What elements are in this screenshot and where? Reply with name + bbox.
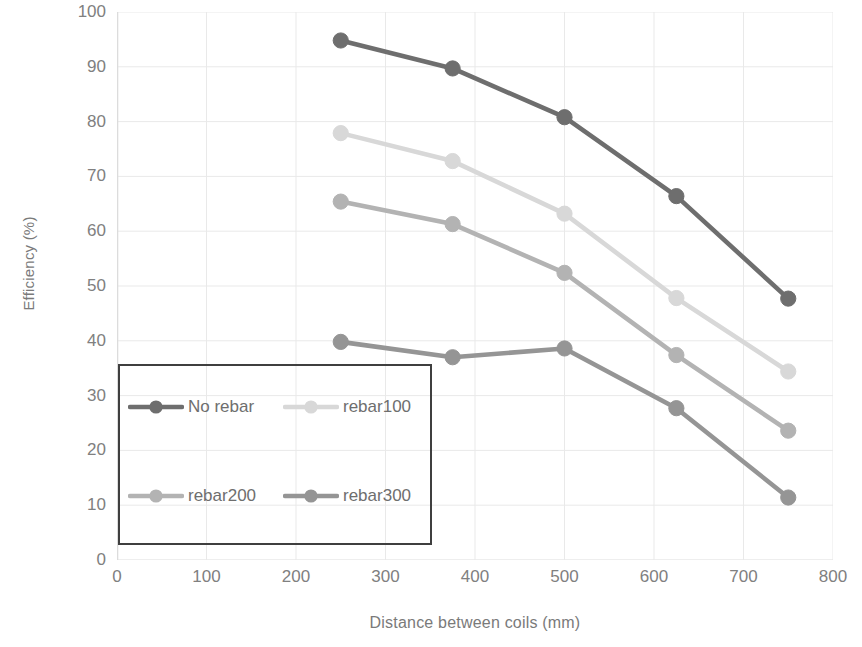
legend-item-3[interactable]: rebar300 <box>275 486 430 506</box>
y-tick-label-40: 40 <box>54 332 106 349</box>
legend-item-2[interactable]: rebar200 <box>120 486 275 506</box>
legend-label-0: No rebar <box>188 397 254 417</box>
y-tick-label-60: 60 <box>54 222 106 239</box>
data-point <box>333 194 348 209</box>
legend-line-marker-icon-3 <box>283 486 339 506</box>
legend-label-3: rebar300 <box>343 486 411 506</box>
data-point <box>557 110 572 125</box>
y-tick-label-50: 50 <box>54 277 106 294</box>
x-tick-label-200: 200 <box>266 568 326 585</box>
legend-line-marker-icon-0 <box>128 397 184 417</box>
data-point <box>781 364 796 379</box>
data-point <box>333 33 348 48</box>
legend-row-1: No rebar rebar100 <box>120 394 430 420</box>
data-point <box>333 334 348 349</box>
data-point <box>333 126 348 141</box>
legend-label-2: rebar200 <box>188 486 256 506</box>
y-tick-label-70: 70 <box>54 167 106 184</box>
legend-line-marker-icon-2 <box>128 486 184 506</box>
x-tick-label-600: 600 <box>624 568 684 585</box>
y-tick-label-100: 100 <box>54 3 106 20</box>
y-axis-title: Efficiency (%) <box>20 174 37 354</box>
x-tick-label-800: 800 <box>803 568 862 585</box>
data-point <box>445 350 460 365</box>
x-axis-title: Distance between coils (mm) <box>117 614 833 632</box>
legend-item-1[interactable]: rebar100 <box>275 397 430 417</box>
y-tick-label-90: 90 <box>54 58 106 75</box>
data-point <box>669 347 684 362</box>
data-point <box>557 206 572 221</box>
data-point <box>669 401 684 416</box>
data-point <box>557 265 572 280</box>
data-point <box>445 153 460 168</box>
data-point <box>445 61 460 76</box>
legend-row-2: rebar200 rebar300 <box>120 483 430 509</box>
x-tick-label-300: 300 <box>356 568 416 585</box>
data-point <box>669 189 684 204</box>
legend: No rebar rebar100 rebar200 rebar300 <box>118 364 432 545</box>
x-tick-label-500: 500 <box>535 568 595 585</box>
data-point <box>445 216 460 231</box>
y-tick-label-80: 80 <box>54 113 106 130</box>
data-point <box>669 290 684 305</box>
data-point <box>781 490 796 505</box>
y-tick-label-20: 20 <box>54 441 106 458</box>
x-tick-label-400: 400 <box>445 568 505 585</box>
legend-item-0[interactable]: No rebar <box>120 397 275 417</box>
legend-line-marker-icon-1 <box>283 397 339 417</box>
data-point <box>557 341 572 356</box>
x-tick-label-700: 700 <box>714 568 774 585</box>
x-tick-label-100: 100 <box>177 568 237 585</box>
x-tick-label-0: 0 <box>87 568 147 585</box>
legend-label-1: rebar100 <box>343 397 411 417</box>
y-tick-label-10: 10 <box>54 496 106 513</box>
data-point <box>781 423 796 438</box>
y-tick-label-30: 30 <box>54 387 106 404</box>
data-point <box>781 291 796 306</box>
y-axis-tick-labels: 1009080706050403020100 <box>40 0 106 647</box>
chart-figure: Efficiency (%) 1009080706050403020100 01… <box>0 0 862 647</box>
y-tick-label-0: 0 <box>54 551 106 568</box>
